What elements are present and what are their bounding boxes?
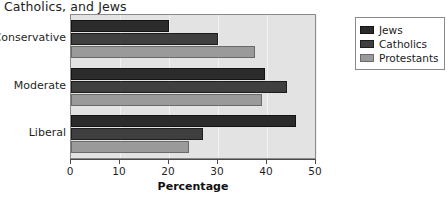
legend-label: Jews bbox=[379, 24, 403, 36]
legend: JewsCatholicsProtestants bbox=[355, 17, 445, 70]
x-tick bbox=[217, 159, 218, 164]
category-label: Moderate bbox=[14, 79, 66, 92]
bar bbox=[71, 94, 262, 106]
x-tick bbox=[119, 159, 120, 164]
x-axis-title: Percentage bbox=[70, 180, 316, 193]
x-tick bbox=[168, 159, 169, 164]
x-tick bbox=[315, 159, 316, 164]
chart-title: Catholics, and Jews bbox=[4, 0, 127, 14]
bar bbox=[71, 33, 218, 45]
gridline bbox=[316, 15, 317, 158]
x-axis-line bbox=[70, 159, 316, 160]
legend-item[interactable]: Catholics bbox=[360, 37, 439, 50]
x-tick-label: 20 bbox=[161, 165, 174, 177]
bar bbox=[71, 81, 287, 93]
bar bbox=[71, 115, 296, 127]
bar bbox=[71, 46, 255, 58]
legend-item[interactable]: Protestants bbox=[360, 51, 439, 64]
x-tick bbox=[70, 159, 71, 164]
bar bbox=[71, 128, 203, 140]
x-tick-label: 40 bbox=[259, 165, 272, 177]
x-tick-label: 0 bbox=[67, 165, 74, 177]
legend-label: Protestants bbox=[379, 52, 439, 64]
x-tick-label: 30 bbox=[210, 165, 223, 177]
bars-layer bbox=[71, 15, 316, 158]
legend-item[interactable]: Jews bbox=[360, 23, 439, 36]
legend-swatch-icon bbox=[360, 26, 374, 34]
bar bbox=[71, 141, 189, 153]
chart-figure: Catholics, and Jews ConservativeModerate… bbox=[0, 0, 448, 199]
legend-swatch-icon bbox=[360, 40, 374, 48]
x-tick-label: 50 bbox=[308, 165, 321, 177]
x-tick bbox=[266, 159, 267, 164]
category-axis-labels: ConservativeModerateLiberal bbox=[0, 14, 66, 159]
legend-swatch-icon bbox=[360, 54, 374, 62]
bar bbox=[71, 68, 265, 80]
category-label: Liberal bbox=[29, 126, 66, 139]
bar bbox=[71, 20, 169, 32]
x-tick-label: 10 bbox=[112, 165, 125, 177]
category-label: Conservative bbox=[0, 31, 66, 44]
legend-label: Catholics bbox=[379, 38, 427, 50]
